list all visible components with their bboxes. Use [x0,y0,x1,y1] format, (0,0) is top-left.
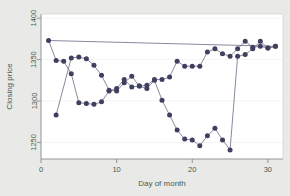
data-point-series-b-23 [212,46,217,51]
data-point-series-a-7 [91,102,96,107]
data-point-series-a-26 [235,54,240,59]
data-point-series-b-21 [197,64,202,69]
data-point-series-a-16 [160,98,165,103]
data-point-series-a-23 [212,126,217,131]
data-point-series-b-31 [273,44,278,49]
data-point-series-b-30 [265,45,270,50]
data-point-series-b-14 [144,83,149,88]
chart-figure: 12501300135014000102030Day of monthClosi… [0,0,290,196]
y-tick-label-3: 1400 [30,10,39,27]
data-point-series-a-6 [84,101,89,106]
x-tick-label-2: 20 [188,165,196,174]
data-point-series-a-21 [197,143,202,148]
data-point-series-b-24 [220,51,225,56]
data-point-series-a-19 [182,137,187,142]
data-point-series-a-18 [175,128,180,133]
data-point-series-b-4 [69,55,74,60]
data-point-series-b-10 [114,89,119,94]
x-tick-label-0: 0 [39,165,43,174]
y-tick-label-0: 1250 [30,134,39,151]
x-tick-label-1: 10 [112,165,120,174]
data-point-series-a-1 [46,38,51,43]
data-point-series-b-27 [243,39,248,44]
data-point-series-b-12 [129,74,134,79]
x-tick-label-3: 30 [264,165,272,174]
data-point-series-a-2 [54,58,59,63]
data-point-series-a-5 [76,100,81,105]
data-point-series-b-29 [258,44,263,49]
data-point-series-a-25 [228,147,233,152]
chart-canvas: 12501300135014000102030Day of monthClosi… [0,0,290,196]
data-point-series-b-19 [182,64,187,69]
data-point-series-b-2 [54,113,59,118]
data-point-series-a-20 [190,137,195,142]
data-point-series-b-22 [205,50,210,55]
data-point-series-b-18 [175,59,180,64]
data-point-series-b-13 [137,84,142,89]
plot-panel [41,14,283,159]
data-point-series-b-28 [250,45,255,50]
x-axis-title: Day of month [138,179,186,188]
data-point-series-b-8 [99,73,104,78]
y-tick-label-1: 1300 [30,93,39,110]
y-tick-label-2: 1350 [30,51,39,68]
data-point-series-a-17 [167,113,172,118]
data-point-series-a-8 [99,99,104,104]
data-point-series-b-6 [84,56,89,61]
data-point-series-b-26 [235,46,240,51]
data-point-series-a-29 [258,39,263,44]
data-point-series-b-20 [190,64,195,69]
data-point-series-b-11 [122,80,127,85]
data-point-series-b-17 [167,74,172,79]
data-point-series-b-16 [160,77,165,82]
data-point-series-a-22 [205,133,210,138]
data-point-series-a-27 [243,52,248,57]
data-point-series-b-5 [76,55,81,60]
data-point-series-b-7 [91,63,96,68]
y-axis-title: Closing price [5,63,14,110]
data-point-series-a-24 [220,137,225,142]
data-point-series-b-25 [228,54,233,59]
data-point-series-b-9 [107,88,112,93]
data-point-series-b-15 [152,77,157,82]
data-point-series-a-4 [69,71,74,76]
data-point-series-a-12 [129,84,134,89]
data-point-series-a-3 [61,59,66,64]
